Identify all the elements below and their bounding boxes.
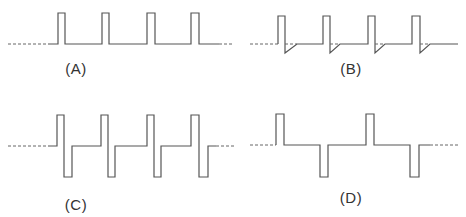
panel-label-a: (A) bbox=[65, 60, 87, 77]
waveform-diagram bbox=[0, 0, 466, 217]
waveform-d bbox=[250, 114, 458, 177]
panel-label-c: (C) bbox=[65, 196, 87, 213]
waveform-b bbox=[250, 16, 458, 53]
waveform-a bbox=[8, 13, 234, 44]
panel-label-d: (D) bbox=[340, 189, 362, 206]
panel-label-b: (B) bbox=[340, 60, 362, 77]
waveform-c bbox=[8, 115, 234, 177]
